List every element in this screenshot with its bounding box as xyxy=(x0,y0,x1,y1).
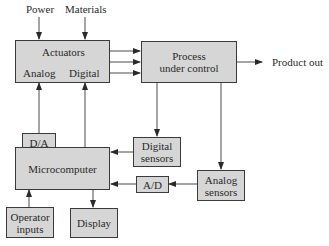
materials-label: Materials xyxy=(65,3,107,15)
actuators-title: Actuators xyxy=(42,46,85,58)
block-diagram: Power Materials Actuators Analog Digital… xyxy=(0,0,329,246)
display-block: Display xyxy=(70,208,118,238)
operator-inputs-line1: Operator xyxy=(10,211,49,223)
process-block: Process under control xyxy=(141,41,237,83)
digital-sensors-line1: Digital xyxy=(142,140,173,152)
microcomputer-block: Microcomputer xyxy=(15,147,110,190)
analog-sensors-line2: sensors xyxy=(205,186,237,198)
digital-sensors-line2: sensors xyxy=(141,152,173,164)
actuators-analog-label: Analog xyxy=(23,67,55,79)
analog-sensors-line1: Analog xyxy=(205,174,237,186)
operator-inputs-line2: inputs xyxy=(17,223,44,235)
digital-sensors-block: Digital sensors xyxy=(133,137,181,167)
actuators-block: Actuators Analog Digital xyxy=(15,40,110,83)
process-line1: Process xyxy=(172,50,206,62)
process-line2: under control xyxy=(160,62,219,74)
ad-converter-block: A/D xyxy=(136,176,169,193)
ad-label: A/D xyxy=(143,179,162,191)
microcomputer-label: Microcomputer xyxy=(28,163,96,175)
display-label: Display xyxy=(77,217,111,229)
actuators-digital-label: Digital xyxy=(69,67,100,79)
operator-inputs-block: Operator inputs xyxy=(6,207,54,238)
product-out-label: Product out xyxy=(272,56,323,68)
analog-sensors-block: Analog sensors xyxy=(197,170,245,201)
power-label: Power xyxy=(26,3,54,15)
